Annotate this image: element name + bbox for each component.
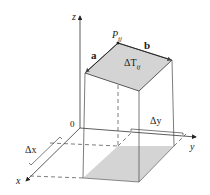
- vector-b-label: b: [144, 39, 150, 51]
- point-label: Pij: [111, 29, 122, 43]
- tangent-plane-diagram: z y x 0 Pij a b ΔTij Δx Δy: [0, 0, 210, 195]
- vector-a-label: a: [91, 49, 97, 61]
- origin-label: 0: [70, 119, 75, 129]
- z-axis-label: z: [71, 11, 76, 22]
- base-region: [83, 146, 174, 182]
- x-axis-label: x: [15, 175, 21, 186]
- y-axis-label: y: [189, 141, 195, 152]
- delta-x-label: Δx: [25, 144, 36, 155]
- delta-y-label: Δy: [150, 115, 161, 126]
